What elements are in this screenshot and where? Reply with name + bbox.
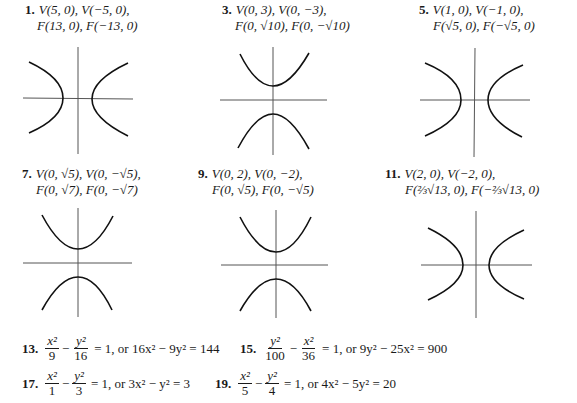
numerator: y² — [268, 334, 282, 349]
equation-rest: = 1, or 9y² − 25x² = 900 — [322, 341, 447, 357]
equation-13: 13. x²9 − y²16 = 1, or 16x² − 9y² = 144 — [22, 334, 219, 363]
hyperbola-branch-right — [488, 65, 523, 137]
fraction: x²1 — [45, 369, 59, 398]
numerator: y² — [74, 334, 88, 349]
numerator: x² — [238, 369, 252, 384]
hyperbola-branch-left — [428, 228, 463, 300]
denominator: 16 — [72, 349, 89, 363]
denominator: 9 — [47, 349, 58, 363]
hyperbola-branch-upper — [240, 53, 309, 86]
axes — [23, 47, 532, 318]
fraction: y²3 — [72, 369, 86, 398]
denominator: 5 — [240, 384, 251, 398]
denominator: 1 — [47, 384, 58, 398]
equation-15: 15. y²100 − x²36 = 1, or 9y² − 25x² = 90… — [240, 334, 447, 363]
problem-number: 19. — [215, 376, 231, 392]
hyperbola-branch-lower — [42, 277, 112, 310]
denominator: 4 — [267, 384, 278, 398]
numerator: x² — [302, 334, 316, 349]
fraction: x²9 — [45, 334, 59, 363]
fraction: y²16 — [72, 334, 89, 363]
fraction: x²5 — [238, 369, 252, 398]
fraction: x²36 — [300, 334, 317, 363]
equation-17: 17. x²1 − y²3 = 1, or 3x² − y² = 3 — [22, 369, 190, 398]
equation-19: 19. x²5 − y²4 = 1, or 4x² − 5y² = 20 — [215, 369, 396, 398]
equation-rest: = 1, or 16x² − 9y² = 144 — [94, 341, 219, 357]
denominator: 36 — [300, 349, 317, 363]
numerator: y² — [72, 369, 86, 384]
numerator: y² — [265, 369, 279, 384]
numerator: x² — [45, 334, 59, 349]
minus-sign: − — [255, 376, 262, 392]
equation-rest: = 1, or 3x² − y² = 3 — [91, 376, 190, 392]
fraction: y²100 — [263, 334, 287, 363]
fraction: y²4 — [265, 369, 279, 398]
hyperbola-branch-right — [92, 63, 128, 136]
hyperbola-branch-left — [29, 62, 63, 133]
problem-number: 15. — [240, 341, 256, 357]
minus-sign: − — [62, 341, 69, 357]
numerator: x² — [45, 369, 59, 384]
minus-sign: − — [62, 376, 69, 392]
denominator: 3 — [74, 384, 85, 398]
minus-sign: − — [290, 341, 297, 357]
denominator: 100 — [263, 349, 287, 363]
equation-rest: = 1, or 4x² − 5y² = 20 — [284, 376, 396, 392]
problem-number: 17. — [22, 376, 38, 392]
problem-number: 13. — [22, 341, 38, 357]
